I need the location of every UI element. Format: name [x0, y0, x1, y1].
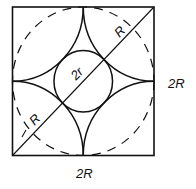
arc-bottom-right [83, 81, 154, 155]
side-label-bottom: 2R [76, 166, 93, 181]
diagonal-line [13, 7, 155, 156]
side-label-right: 2R [168, 76, 185, 91]
radius-tick [22, 130, 26, 137]
geometry-diagram [0, 0, 196, 189]
